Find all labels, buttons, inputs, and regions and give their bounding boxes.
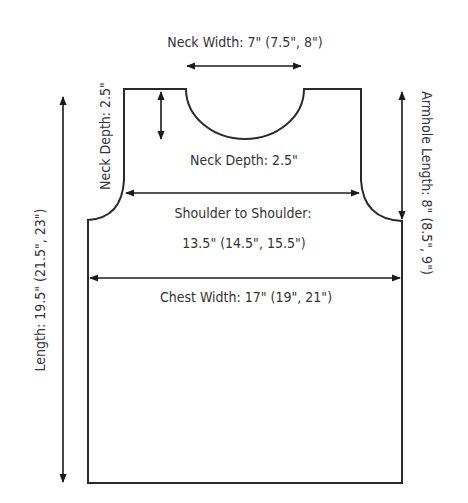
shoulder-label-line1: Shoulder to Shoulder: <box>175 205 312 221</box>
sweater-schematic: Neck Width: 7" (7.5", 8") Neck Depth: 2.… <box>0 0 468 503</box>
neck-depth-inner-label: Neck Depth: 2.5" <box>190 152 298 168</box>
neck-width-label: Neck Width: 7" (7.5", 8") <box>167 34 322 50</box>
armhole-length-label: Armhole Length: 8" (8.5", 9") <box>419 91 435 275</box>
neck-depth-side-label: Neck Depth: 2.5" <box>97 82 113 190</box>
garment-outline <box>88 89 402 483</box>
shoulder-label-line2: 13.5" (14.5", 15.5") <box>182 235 305 251</box>
length-label: Length: 19.5" (21.5", 23") <box>32 209 48 372</box>
chest-width-label: Chest Width: 17" (19", 21") <box>160 289 332 305</box>
